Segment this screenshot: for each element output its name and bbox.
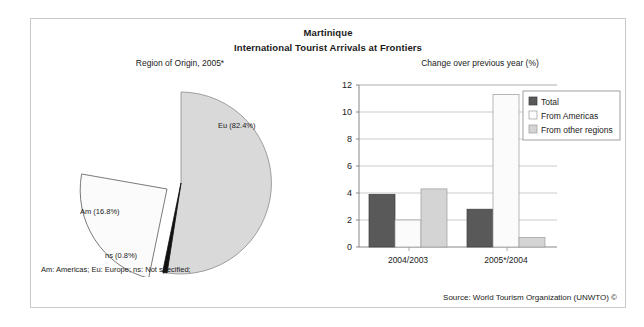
pie-chart-svg: [33, 79, 323, 277]
legend-swatch-total: [529, 97, 537, 105]
pie-slice-am: [80, 174, 167, 277]
pie-slice-am-group: [80, 174, 167, 277]
x-axis-category-labels: 2004/2003 2005*/2004: [388, 255, 528, 265]
category-label-2005-2004: 2005*/2004: [484, 255, 528, 265]
pie-label-am: Am (16.8%): [80, 207, 120, 216]
bar-from-other-regions-2004-2003: [421, 189, 447, 247]
legend-swatch-from-americas: [529, 111, 537, 119]
ytick-6: 6: [347, 161, 352, 171]
legend-label-from-other-regions: From other regions: [541, 125, 613, 135]
legend-label-from-americas: From Americas: [541, 111, 598, 121]
figure-title-block: Martinique International Tourist Arrival…: [31, 25, 625, 55]
ytick-12: 12: [342, 80, 352, 90]
pie-label-eu: Eu (82.4%): [218, 121, 256, 130]
figure-title: Martinique: [31, 25, 625, 40]
legend-label-total: Total: [541, 97, 559, 107]
ytick-10: 10: [342, 107, 352, 117]
bar-total-2005-2004: [467, 209, 493, 247]
figure-footnote: Am: Americas; Eu: Europe; ns: Not specif…: [41, 265, 191, 274]
bar-total-2004-2003: [369, 194, 395, 247]
pie-chart-stage: Eu (82.4%) Am (16.8%) ns (0.8%): [33, 79, 323, 277]
y-axis-tick-labels: 12 10 8 6 4 2 0: [342, 80, 352, 252]
bar-from-americas-2004-2003: [395, 220, 421, 247]
bar-chart-heading: Change over previous year (%): [327, 57, 623, 69]
pie-label-ns: ns (0.8%): [105, 251, 137, 260]
bar-chart-panel: Change over previous year (%): [327, 57, 623, 287]
pie-chart-heading: Region of Origin, 2005*: [33, 57, 323, 69]
pie-slice-eu: [167, 92, 271, 274]
figure-subtitle: International Tourist Arrivals at Fronti…: [31, 40, 625, 55]
ytick-2: 2: [347, 215, 352, 225]
ytick-8: 8: [347, 134, 352, 144]
bar-from-americas-2005-2004: [493, 94, 519, 247]
pie-chart-panel: Region of Origin, 2005* Eu (82.4%) Am (1…: [33, 57, 323, 279]
bar-chart-legend: Total From Americas From other regions: [523, 91, 620, 140]
bar-group-2004-2003: [369, 189, 447, 247]
legend-swatch-from-other-regions: [529, 125, 537, 133]
ytick-4: 4: [347, 188, 352, 198]
figure-frame: Martinique International Tourist Arrival…: [30, 18, 626, 308]
category-label-2004-2003: 2004/2003: [388, 255, 428, 265]
bar-chart-svg: 12 10 8 6 4 2 0: [327, 77, 623, 282]
ytick-0: 0: [347, 242, 352, 252]
bar-from-other-regions-2005-2004: [519, 238, 545, 248]
source-attribution: Source: World Tourism Organization (UNWT…: [443, 293, 617, 302]
bar-chart-stage: 12 10 8 6 4 2 0: [327, 77, 623, 282]
